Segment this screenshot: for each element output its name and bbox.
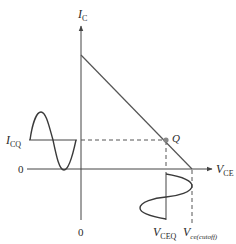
origin-x-zero-label: 0 bbox=[78, 226, 84, 238]
load-line bbox=[81, 55, 192, 169]
load-line-diagram: IC VCE 0 0 ICQ Q VCEQ Vce(cutoff) bbox=[0, 0, 236, 244]
vcutoff-label: Vce(cutoff) bbox=[183, 225, 218, 241]
origin-y-zero-label: 0 bbox=[18, 163, 24, 175]
icq-label: ICQ bbox=[5, 133, 21, 149]
current-sine-wave bbox=[30, 112, 76, 170]
y-axis-label: IC bbox=[77, 7, 87, 23]
x-axis-label: VCE bbox=[216, 162, 234, 178]
q-point-label: Q bbox=[172, 132, 180, 144]
vceq-label: VCEQ bbox=[153, 225, 177, 241]
q-point-marker bbox=[163, 137, 168, 142]
